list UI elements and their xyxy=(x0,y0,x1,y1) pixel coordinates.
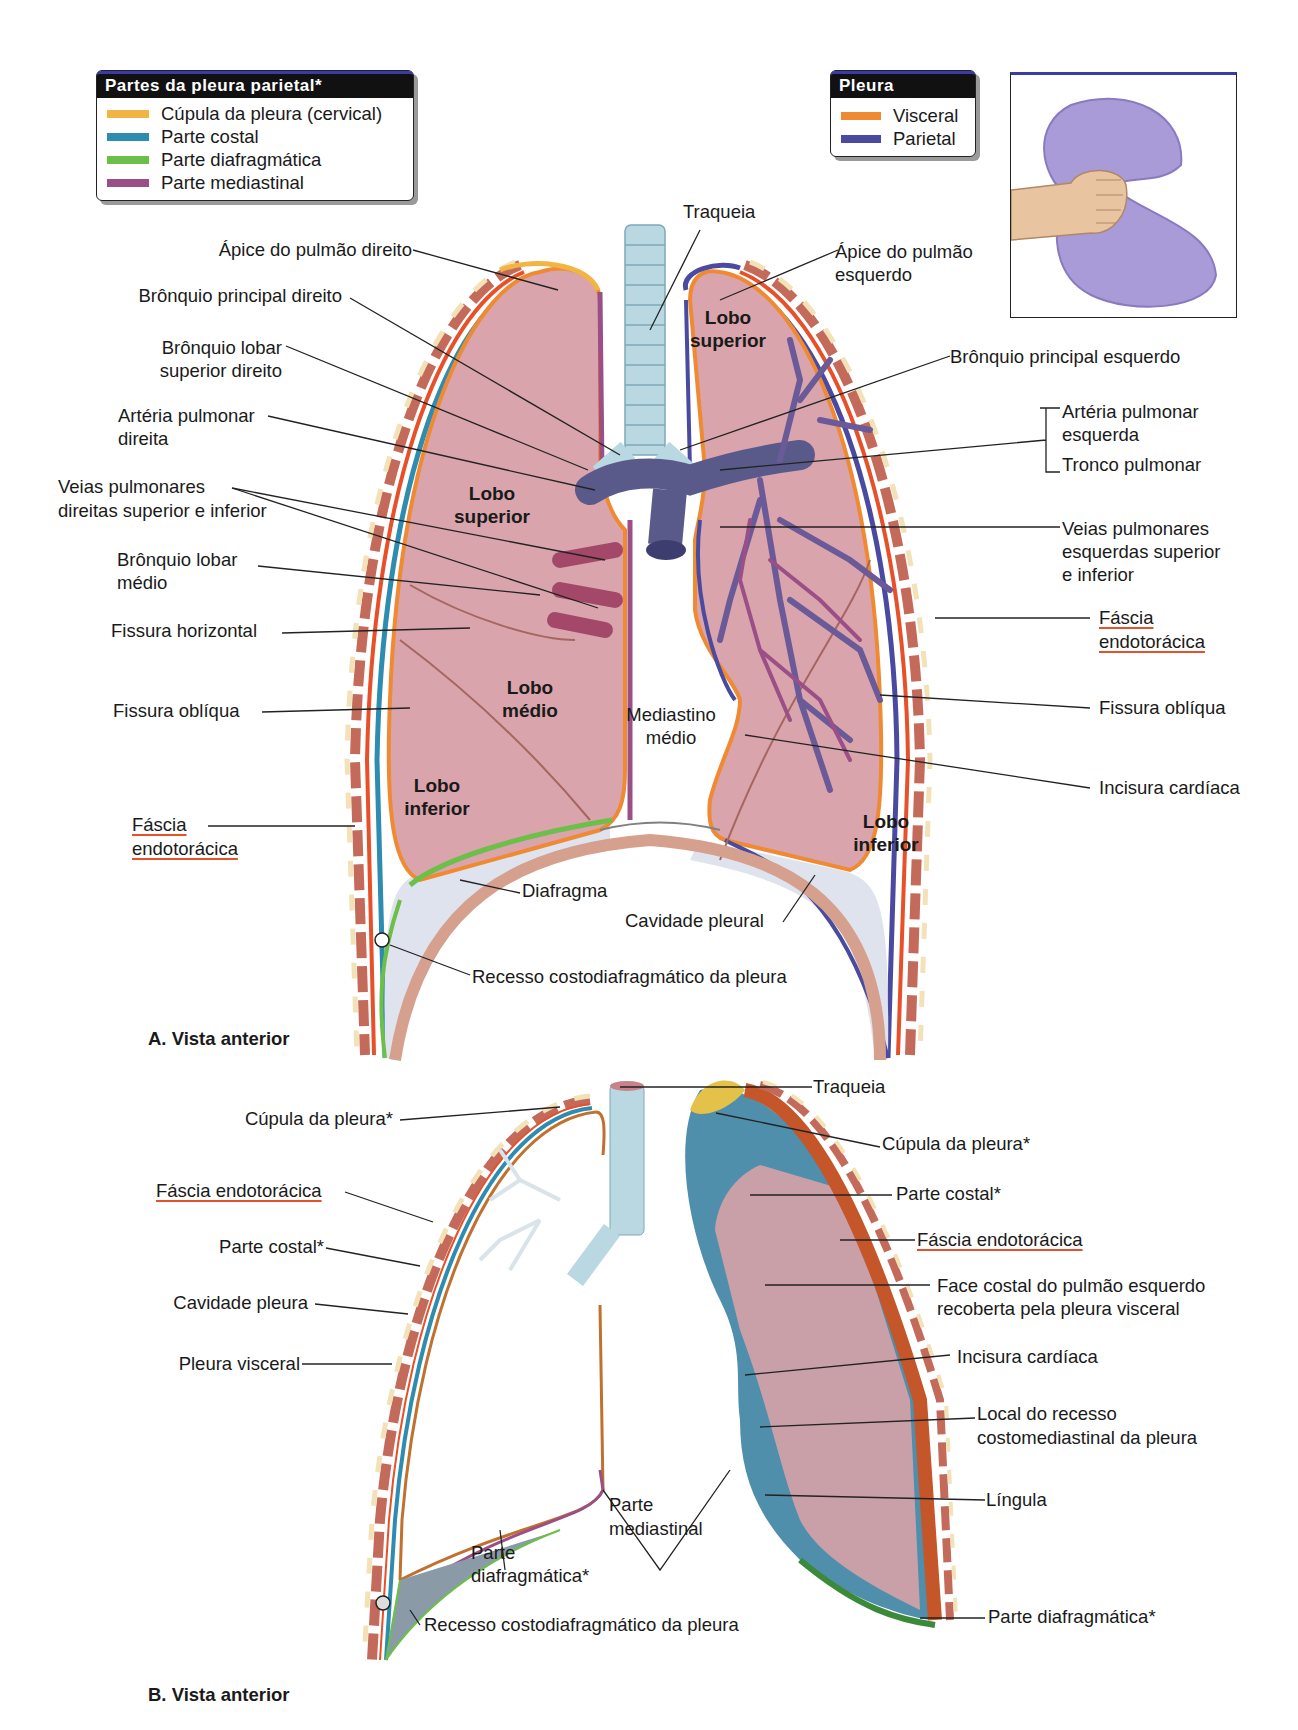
legend-pleura-title: Pleura xyxy=(831,71,975,98)
label-apice-esquerdo-2: esquerdo xyxy=(835,264,912,286)
label-parte-diafragmatica-left-2: diafragmática* xyxy=(471,1565,589,1587)
label-cavidade-pleura: Cavidade pleura xyxy=(173,1292,308,1314)
legend-item-parietal: Parietal xyxy=(831,127,975,150)
label-cupula-left: Cúpula da pleura* xyxy=(245,1108,393,1130)
label-veias-direitas-1: Veias pulmonares xyxy=(58,476,205,498)
label-fascia-right-b: Fáscia endotorácica xyxy=(917,1229,1083,1251)
label-diafragma: Diafragma xyxy=(522,880,607,902)
label-face-costal-2: recoberta pela pleura visceral xyxy=(937,1298,1180,1320)
figure-a-artwork xyxy=(347,225,930,1060)
legend-parietal-pleura: Partes da pleura parietal* Cúpula da ple… xyxy=(96,70,414,201)
label-fascia-esquerda-1: Fáscia xyxy=(1099,607,1154,629)
label-bronquio-lobar-medio-2: médio xyxy=(117,572,167,594)
swatch-mediastinal-icon xyxy=(107,179,149,187)
label-pleura-visceral: Pleura visceral xyxy=(179,1353,300,1375)
label-incisura-cardiaca-b: Incisura cardíaca xyxy=(957,1346,1098,1368)
caption-figure-b: B. Vista anterior xyxy=(148,1684,290,1706)
label-parte-costal-right: Parte costal* xyxy=(896,1183,1001,1205)
caption-figure-a: A. Vista anterior xyxy=(148,1028,290,1050)
label-local-recesso-1: Local do recesso xyxy=(977,1403,1117,1425)
label-apice-direito: Ápice do pulmão direito xyxy=(219,239,412,261)
label-lingula: Língula xyxy=(986,1489,1047,1511)
label-incisura-cardiaca-a: Incisura cardíaca xyxy=(1099,777,1240,799)
swatch-parietal-icon xyxy=(841,135,881,143)
label-veias-esquerdas-2: esquerdas superior xyxy=(1062,541,1220,563)
label-fascia-direita-2: endotorácica xyxy=(132,838,238,860)
label-bronquio-lobar-medio-1: Brônquio lobar xyxy=(117,549,237,571)
label-mediastino-2: médio xyxy=(621,727,721,749)
legend-pleura: Pleura Visceral Parietal xyxy=(830,70,976,157)
inset-fist-balloon-illustration xyxy=(1010,72,1237,318)
label-fissura-horizontal: Fissura horizontal xyxy=(111,620,257,642)
label-arteria-pulmonar-direita-2: direita xyxy=(118,428,168,450)
legend-parietal-title: Partes da pleura parietal* xyxy=(97,71,413,98)
label-bronquio-lobar-superior-1: Brônquio lobar xyxy=(162,337,282,359)
swatch-diafragmatica-icon xyxy=(107,156,149,164)
lobe-right-inferior: Loboinferior xyxy=(397,774,477,820)
label-mediastino-1: Mediastino xyxy=(621,704,721,726)
label-parte-costal-left: Parte costal* xyxy=(219,1236,324,1258)
label-tronco-pulmonar: Tronco pulmonar xyxy=(1062,454,1201,476)
label-bronquio-lobar-superior-2: superior direito xyxy=(160,360,282,382)
label-arteria-pulmonar-esquerda-2: esquerda xyxy=(1062,424,1139,446)
lobe-right-superior: Lobosuperior xyxy=(452,482,532,528)
label-arteria-pulmonar-esquerda-1: Artéria pulmonar xyxy=(1062,401,1199,423)
legend-item-mediastinal: Parte mediastinal xyxy=(97,171,413,194)
legend-item-costal: Parte costal xyxy=(97,125,413,148)
swatch-cupula-icon xyxy=(107,110,149,118)
label-veias-esquerdas-1: Veias pulmonares xyxy=(1062,518,1209,540)
label-apice-esquerdo-1: Ápice do pulmão xyxy=(835,241,973,263)
label-local-recesso-2: costomediastinal da pleura xyxy=(977,1427,1197,1449)
label-arteria-pulmonar-direita-1: Artéria pulmonar xyxy=(118,405,255,427)
label-fascia-direita-1: Fáscia xyxy=(132,814,187,836)
label-recesso-a: Recesso costodiafragmático da pleura xyxy=(472,966,787,988)
swatch-costal-icon xyxy=(107,133,149,141)
label-fissura-obliqua-esquerda: Fissura oblíqua xyxy=(1099,697,1225,719)
lobe-left-superior: Lobosuperior xyxy=(688,306,768,352)
label-fascia-esquerda-2: endotorácica xyxy=(1099,631,1205,653)
label-parte-mediastinal-2: mediastinal xyxy=(609,1518,703,1540)
figure-b-artwork xyxy=(364,1080,956,1660)
label-cupula-right: Cúpula da pleura* xyxy=(882,1133,1030,1155)
legend-item-cupula: Cúpula da pleura (cervical) xyxy=(97,102,413,125)
label-veias-esquerdas-3: e inferior xyxy=(1062,564,1134,586)
label-traqueia-b: Traqueia xyxy=(813,1076,885,1098)
label-fissura-obliqua-direita: Fissura oblíqua xyxy=(113,700,239,722)
label-veias-direitas-2: direitas superior e inferior xyxy=(58,500,267,522)
legend-item-diafragmatica: Parte diafragmática xyxy=(97,148,413,171)
label-fascia-left-b: Fáscia endotorácica xyxy=(156,1180,322,1202)
lobe-left-inferior: Loboinferior xyxy=(846,810,926,856)
swatch-visceral-icon xyxy=(841,112,881,120)
label-recesso-b: Recesso costodiafragmático da pleura xyxy=(424,1614,739,1636)
label-cavidade-pleural: Cavidade pleural xyxy=(625,910,764,932)
label-parte-diafragmatica-right: Parte diafragmática* xyxy=(988,1606,1156,1628)
label-bronquio-principal-direito: Brônquio principal direito xyxy=(138,285,342,307)
legend-item-visceral: Visceral xyxy=(831,104,975,127)
lobe-right-medio: Lobomédio xyxy=(490,676,570,722)
fist-balloon-icon xyxy=(1011,75,1236,317)
label-bronquio-principal-esquerdo: Brônquio principal esquerdo xyxy=(950,346,1180,368)
label-traqueia-a: Traqueia xyxy=(683,201,755,223)
label-parte-mediastinal-1: Parte xyxy=(609,1494,653,1516)
label-parte-diafragmatica-left-1: Parte xyxy=(471,1542,515,1564)
label-face-costal-1: Face costal do pulmão esquerdo xyxy=(937,1275,1205,1297)
